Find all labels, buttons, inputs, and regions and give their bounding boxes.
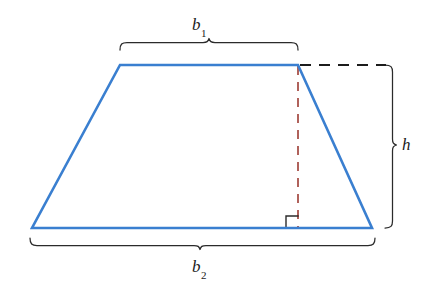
label-height-h: h [402, 136, 411, 153]
trapezoid-area-diagram: b1 b2 h [0, 0, 435, 287]
diagram-canvas [0, 0, 435, 287]
right-brace [385, 65, 397, 228]
top-brace [120, 39, 298, 51]
right-angle-marker [286, 216, 298, 228]
trapezoid-outline [32, 65, 372, 228]
label-top-base-subscript: 1 [201, 27, 207, 39]
label-bottom-base-b2: b2 [192, 258, 206, 278]
bottom-brace [30, 238, 375, 250]
label-top-base-b1: b1 [192, 16, 206, 36]
label-bottom-base-subscript: 2 [201, 269, 207, 281]
